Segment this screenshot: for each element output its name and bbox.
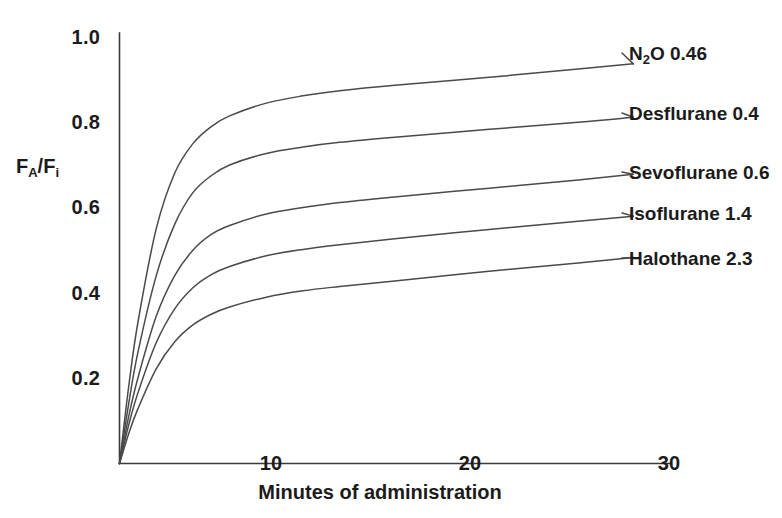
y-axis-title: FA/Fi bbox=[16, 155, 59, 178]
series-label-n2o-rest: O 0.46 bbox=[650, 43, 707, 64]
series-label-isoflurane: Isoflurane 1.4 bbox=[629, 203, 752, 225]
series-curve-halothane-2-3 bbox=[120, 258, 634, 464]
y-tick-label-0.8: 0.8 bbox=[46, 111, 100, 134]
chart-figure: 1.0 0.8 0.6 0.4 0.2 FA/Fi 10 20 30 Minut… bbox=[0, 0, 782, 518]
x-tick-label-20: 20 bbox=[440, 452, 500, 475]
series-curve-desflurane-0-4 bbox=[120, 117, 634, 463]
series-label-n2o: N2O 0.46 bbox=[629, 43, 707, 65]
y-tick-label-1.0: 1.0 bbox=[46, 26, 100, 49]
y-tick-label-0.2: 0.2 bbox=[46, 367, 100, 390]
y-axis-title-sub-i: i bbox=[55, 165, 59, 180]
series-label-sevoflurane: Sevoflurane 0.6 bbox=[629, 162, 769, 184]
y-axis-title-f: F bbox=[16, 155, 28, 177]
series-label-desflurane: Desflurane 0.4 bbox=[629, 103, 759, 125]
y-axis-title-slash-f: /F bbox=[38, 155, 56, 177]
series-label-n2o-main: N bbox=[629, 43, 643, 64]
series-label-n2o-sub: 2 bbox=[643, 52, 650, 67]
series-lines bbox=[120, 64, 634, 464]
series-label-halothane: Halothane 2.3 bbox=[629, 248, 753, 270]
y-tick-label-0.4: 0.4 bbox=[46, 282, 100, 305]
x-tick-label-10: 10 bbox=[241, 452, 301, 475]
x-tick-label-30: 30 bbox=[639, 452, 699, 475]
series-curve-sevoflurane-0-6 bbox=[120, 174, 634, 463]
x-axis-title: Minutes of administration bbox=[190, 481, 570, 504]
y-axis-title-sub-a: A bbox=[28, 165, 37, 180]
legend-leader-lines bbox=[622, 53, 633, 258]
y-tick-label-0.6: 0.6 bbox=[46, 196, 100, 219]
series-curve-isoflurane-1-4 bbox=[120, 216, 634, 463]
